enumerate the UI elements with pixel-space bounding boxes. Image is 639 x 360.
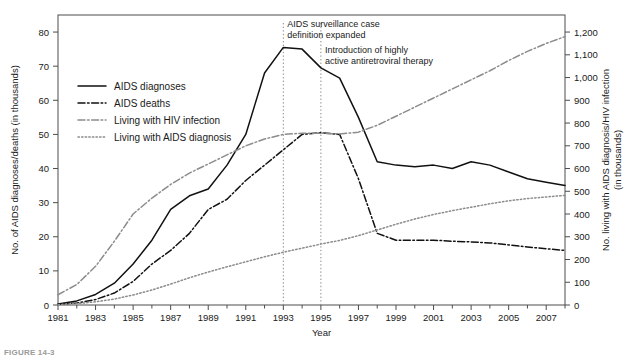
figure-caption: FIGURE 14-3	[4, 348, 55, 357]
y-tick-label-left: 30	[38, 197, 49, 208]
y-tick-label-left: 10	[38, 265, 49, 276]
x-tick-label: 2007	[536, 312, 557, 323]
annotation-haart-line1: Introduction of highly	[325, 45, 409, 55]
x-tick-label: 2001	[423, 312, 444, 323]
x-tick-label: 1999	[385, 312, 406, 323]
y-tick-label-right: 600	[574, 163, 590, 174]
legend-label: AIDS deaths	[114, 98, 170, 109]
y-tick-label-right: 100	[574, 277, 590, 288]
y-tick-label-left: 20	[38, 231, 49, 242]
x-tick-label: 1991	[235, 312, 256, 323]
y-tick-label-right: 300	[574, 231, 590, 242]
series-line	[58, 133, 565, 305]
y-tick-label-right: 1,000	[574, 72, 598, 83]
y-tick-label-right: 900	[574, 95, 590, 106]
x-tick-label: 1989	[198, 312, 219, 323]
x-tick-label: 1993	[273, 312, 294, 323]
y-tick-label-left: 60	[38, 95, 49, 106]
legend-label: AIDS diagnoses	[114, 81, 186, 92]
y-tick-label-left: 0	[44, 300, 49, 311]
annotation-haart-line2: active antiretroviral therapy	[325, 56, 434, 66]
legend-label: Living with HIV infection	[114, 115, 220, 126]
y-tick-label-left: 50	[38, 129, 49, 140]
legend-label: Living with AIDS diagnosis	[114, 132, 231, 143]
aids-trends-chart: 1981198319851987198919911993199519971999…	[0, 0, 639, 346]
x-tick-label: 1997	[348, 312, 369, 323]
x-axis-title: Year	[312, 327, 331, 338]
y-axis-title-right: No. living with AIDS diagnosis/HIV infec…	[600, 69, 611, 251]
y-tick-label-right: 1,100	[574, 49, 598, 60]
y-tick-label-right: 700	[574, 140, 590, 151]
y-tick-label-right: 400	[574, 209, 590, 220]
y-tick-label-right: 500	[574, 186, 590, 197]
x-tick-label: 1983	[85, 312, 106, 323]
x-tick-label: 2005	[498, 312, 519, 323]
annotation-case-definition-line1: AIDS surveillance case	[287, 19, 380, 29]
y-tick-label-right: 0	[574, 300, 579, 311]
x-tick-label: 1987	[160, 312, 181, 323]
annotation-case-definition-line2: definition expanded	[287, 30, 365, 40]
y-tick-label-left: 80	[38, 27, 49, 38]
x-tick-label: 1981	[47, 312, 68, 323]
y-axis-title-left: No. of AIDS diagnoses/deaths (in thousan…	[9, 65, 20, 255]
y-tick-label-right: 200	[574, 254, 590, 265]
y-axis-title-right-sub: (in thousands)	[612, 130, 623, 190]
series-line	[58, 195, 565, 304]
x-tick-label: 1995	[310, 312, 331, 323]
y-tick-label-right: 800	[574, 118, 590, 129]
y-tick-label-left: 70	[38, 61, 49, 72]
x-tick-label: 2003	[461, 312, 482, 323]
y-tick-label-right: 1,200	[574, 27, 598, 38]
x-tick-label: 1985	[123, 312, 144, 323]
y-tick-label-left: 40	[38, 163, 49, 174]
figure-aids-surveillance: 1981198319851987198919911993199519971999…	[0, 0, 639, 360]
